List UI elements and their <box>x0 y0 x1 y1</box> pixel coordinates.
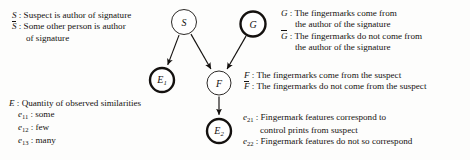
graph-node-e1[interactable] <box>150 68 174 92</box>
graph-node-g[interactable] <box>241 12 266 37</box>
graph-node-e2[interactable] <box>207 119 231 143</box>
network-graph-svg <box>0 0 470 160</box>
graph-edge-s-to-e1 <box>168 35 179 65</box>
graph-edge-s-to-f <box>191 34 211 69</box>
graph-edge-g-to-f <box>227 36 246 69</box>
network-graph: SGE1FE2 <box>0 0 470 160</box>
figure-bayesian-network-with-legends: S : Suspect is author of signatureS : So… <box>0 0 470 160</box>
graph-edges <box>168 34 246 115</box>
graph-nodes <box>150 10 266 144</box>
graph-node-f[interactable] <box>207 71 231 95</box>
graph-node-s[interactable] <box>172 10 197 35</box>
